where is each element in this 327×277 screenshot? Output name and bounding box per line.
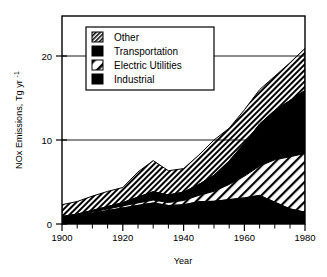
legend-item-other[interactable]: Other xyxy=(92,32,140,43)
legend-label-electric-utilities: Electric Utilities xyxy=(114,60,182,71)
svg-text:NOx Emissions, Tg yr -1: NOx Emissions, Tg yr -1 xyxy=(13,71,24,169)
y-tick-label-10: 10 xyxy=(41,135,52,146)
x-tick-label-1900: 1900 xyxy=(51,232,72,243)
legend-label-industrial: Industrial xyxy=(114,74,155,85)
y-axis-title-superscript: -1 xyxy=(13,71,20,77)
x-axis-major-ticks xyxy=(62,224,305,231)
y-tick-label-20: 20 xyxy=(41,51,52,62)
y-tick-label-0: 0 xyxy=(47,219,52,230)
y-axis-title-main: NOx Emissions, Tg yr xyxy=(14,77,24,168)
legend-swatch-industrial xyxy=(92,74,103,84)
legend-swatch-transportation xyxy=(92,46,103,56)
x-tick-label-1920: 1920 xyxy=(112,232,133,243)
legend-label-transportation: Transportation xyxy=(114,46,178,57)
legend-swatch-electric-utilities xyxy=(92,60,103,70)
x-tick-label-1960: 1960 xyxy=(234,232,255,243)
chart-figure: 20 10 0 NOx Emissions, Tg yr -1 xyxy=(0,0,327,277)
chart-legend: Other Transportation Electric Utilities … xyxy=(86,27,214,90)
x-axis-title: Year xyxy=(174,256,193,266)
legend-swatch-other xyxy=(92,32,103,42)
x-tick-label-1980: 1980 xyxy=(294,232,315,243)
nox-emissions-stacked-area-chart: 20 10 0 NOx Emissions, Tg yr -1 xyxy=(0,0,327,277)
legend-label-other: Other xyxy=(114,32,140,43)
legend-item-industrial[interactable]: Industrial xyxy=(92,74,155,85)
y-axis-title: NOx Emissions, Tg yr -1 xyxy=(13,71,24,169)
x-tick-label-1940: 1940 xyxy=(173,232,194,243)
